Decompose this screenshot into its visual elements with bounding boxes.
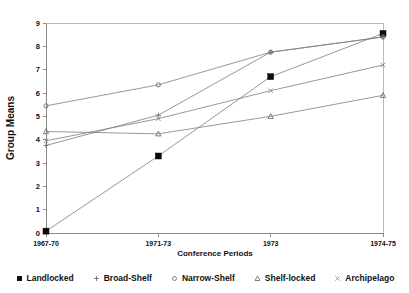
y-tick-label: 0 [36, 229, 40, 238]
data-point-marker [43, 143, 48, 148]
y-axis-title: Group Means [5, 96, 16, 160]
y-tick-label: 3 [36, 159, 40, 168]
line-chart-svg: 0123456789 1967-701971-7319731974-75 Gro… [0, 0, 409, 258]
legend-item-label: Broad-Shelf [104, 273, 152, 283]
series-line-narrow-shelf [46, 37, 383, 106]
x-axis-ticks: 1967-701971-7319731974-75 [33, 233, 396, 247]
y-tick-label: 6 [36, 89, 40, 98]
plus-icon [92, 274, 101, 283]
y-tick-label: 1 [36, 205, 40, 214]
legend-item-broad-shelf[interactable]: Broad-Shelf [92, 273, 152, 283]
legend-item-archipelago[interactable]: Archipelago [333, 273, 394, 283]
legend-item-label: Narrow-Shelf [182, 273, 235, 283]
data-point-marker [155, 153, 161, 159]
y-tick-label: 8 [36, 42, 40, 51]
filled-square-icon [15, 274, 24, 283]
x-tick-label: 1973 [263, 240, 279, 247]
y-axis-ticks: 0123456789 [36, 19, 46, 238]
plot-frame [46, 23, 383, 233]
y-tick-label: 5 [36, 112, 40, 121]
y-tick-label: 7 [36, 65, 40, 74]
plot-area: 0123456789 1967-701971-7319731974-75 Gro… [0, 0, 409, 258]
legend-item-narrow-shelf[interactable]: Narrow-Shelf [170, 273, 235, 283]
data-point-marker [43, 228, 49, 234]
legend-item-label: Landlocked [27, 273, 74, 283]
x-tick-label: 1974-75 [370, 240, 396, 247]
chart-legend: LandlockedBroad-ShelfNarrow-ShelfShelf-l… [0, 270, 409, 286]
circle-icon [170, 274, 179, 283]
y-tick-label: 9 [36, 19, 40, 28]
data-point-marker [268, 74, 274, 80]
x-tick-label: 1967-70 [33, 240, 59, 247]
triangle-icon [253, 274, 262, 283]
legend-item-shelf-locked[interactable]: Shelf-locked [253, 273, 316, 283]
series-lines [46, 34, 383, 232]
legend-item-label: Archipelago [345, 273, 394, 283]
cross-icon [333, 274, 342, 283]
chart-figure: 0123456789 1967-701971-7319731974-75 Gro… [0, 0, 409, 293]
legend-item-landlocked[interactable]: Landlocked [15, 273, 74, 283]
x-tick-label: 1971-73 [145, 240, 171, 247]
series-line-archipelago [46, 65, 383, 141]
y-tick-label: 2 [36, 182, 40, 191]
legend-item-label: Shelf-locked [265, 273, 316, 283]
y-tick-label: 4 [36, 135, 41, 144]
series-line-shelf-locked [46, 95, 383, 133]
x-axis-title: Conference Periods [177, 249, 253, 258]
